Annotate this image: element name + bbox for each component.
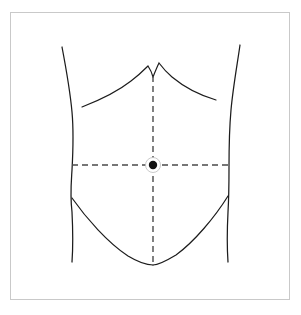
costal-margin-left [82, 66, 153, 107]
inguinal-line-left [72, 198, 153, 265]
costal-margin-right [153, 63, 216, 100]
figure-root: Anterior abdominal wall surface anatomy … [0, 0, 301, 315]
inguinal-line-right [153, 196, 228, 265]
right-flank-contour [227, 45, 240, 262]
umbilicus-dot [149, 161, 157, 169]
anatomy-diagram: Anterior abdominal wall surface anatomy … [0, 0, 301, 315]
left-flank-contour [62, 47, 73, 262]
